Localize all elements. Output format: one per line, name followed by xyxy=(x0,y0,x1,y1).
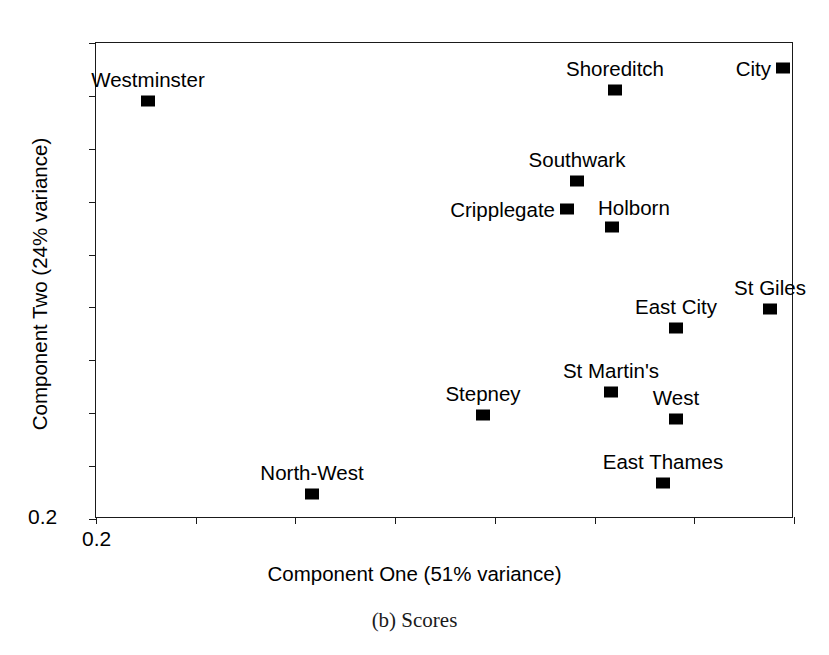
data-point-marker xyxy=(604,387,618,398)
scatter-plot-figure: Component Two (24% variance) Component O… xyxy=(0,0,829,655)
data-point-label: North-West xyxy=(260,463,363,484)
x-axis-tick xyxy=(595,517,596,524)
data-point-label: Southwark xyxy=(529,150,626,171)
x-axis-tick xyxy=(96,517,97,524)
x-axis-tick-label: 0.2 xyxy=(82,527,111,551)
data-point-label: West xyxy=(653,388,699,409)
y-axis-tick-label: 0.2 xyxy=(28,505,57,529)
data-point-marker xyxy=(560,204,574,215)
data-point-label: St Martin's xyxy=(563,361,659,382)
data-point-marker xyxy=(605,222,619,233)
data-point-label: St Giles xyxy=(734,278,806,299)
y-axis-tick xyxy=(89,413,96,414)
data-point-label: Stepney xyxy=(445,384,520,405)
data-point-label: East City xyxy=(635,297,717,318)
y-axis-tick xyxy=(89,255,96,256)
y-axis-tick xyxy=(89,202,96,203)
data-point-label: City xyxy=(736,59,771,80)
data-point-marker xyxy=(776,63,790,74)
y-axis-tick xyxy=(89,96,96,97)
data-point-label: Cripplegate xyxy=(450,200,555,221)
figure-caption: (b) Scores xyxy=(0,608,829,633)
data-point-marker xyxy=(669,323,683,334)
data-point-marker xyxy=(763,304,777,315)
x-axis-tick xyxy=(794,517,795,524)
y-axis-title: Component Two (24% variance) xyxy=(28,84,52,484)
plot-area xyxy=(95,42,793,518)
y-axis-tick xyxy=(89,466,96,467)
y-axis-tick xyxy=(89,360,96,361)
data-point-marker xyxy=(305,489,319,500)
x-axis-tick xyxy=(395,517,396,524)
data-point-marker xyxy=(608,85,622,96)
y-axis-tick xyxy=(89,149,96,150)
x-axis-tick xyxy=(295,517,296,524)
x-axis-tick xyxy=(495,517,496,524)
data-point-label: Shoreditch xyxy=(566,59,664,80)
data-point-marker xyxy=(669,414,683,425)
x-axis-tick xyxy=(196,517,197,524)
y-axis-tick xyxy=(89,43,96,44)
data-point-label: Westminster xyxy=(91,70,205,91)
x-axis-title: Component One (51% variance) xyxy=(0,562,829,586)
data-point-marker xyxy=(570,176,584,187)
data-point-marker xyxy=(141,96,155,107)
y-axis-tick xyxy=(89,519,96,520)
data-point-marker xyxy=(476,410,490,421)
data-point-label: East Thames xyxy=(603,452,723,473)
y-axis-tick xyxy=(89,307,96,308)
data-point-marker xyxy=(656,478,670,489)
data-point-label: Holborn xyxy=(598,198,670,219)
x-axis-tick xyxy=(694,517,695,524)
